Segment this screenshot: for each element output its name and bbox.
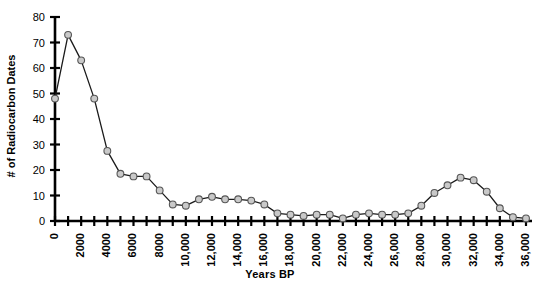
data-point-marker bbox=[405, 210, 412, 217]
x-axis-tick-label: 4000 bbox=[100, 233, 112, 257]
x-axis-tick-label-group: 20,000 bbox=[310, 233, 322, 267]
x-axis-tick-label-group: 22,000 bbox=[336, 233, 348, 267]
y-axis-tick-label: 60 bbox=[33, 62, 45, 74]
data-point-marker bbox=[457, 174, 464, 181]
y-axis-tick-label: 70 bbox=[33, 37, 45, 49]
data-point-marker bbox=[209, 193, 216, 200]
x-axis-tick-label: 10,000 bbox=[179, 233, 191, 267]
data-point-marker bbox=[222, 196, 229, 203]
x-axis-tick-label-group: 8000 bbox=[153, 233, 165, 257]
data-point-marker bbox=[353, 211, 360, 218]
x-axis-tick-label: 6000 bbox=[126, 233, 138, 257]
x-axis-tick-label: 0 bbox=[48, 233, 60, 239]
x-axis-tick-label-group: 12,000 bbox=[205, 233, 217, 267]
x-axis-tick-label: 8000 bbox=[153, 233, 165, 257]
x-axis-tick-label-group: 26,000 bbox=[388, 233, 400, 267]
x-axis-title: Years BP bbox=[0, 268, 540, 280]
x-axis-tick-label: 12,000 bbox=[205, 233, 217, 267]
x-axis-tick-label: 24,000 bbox=[362, 233, 374, 267]
x-axis-tick-label: 32,000 bbox=[467, 233, 479, 267]
data-point-marker bbox=[496, 205, 503, 212]
y-axis-tick-label: 10 bbox=[33, 190, 45, 202]
x-axis-tick-label: 36,000 bbox=[519, 233, 531, 267]
x-axis-tick-label: 14,000 bbox=[231, 233, 243, 267]
data-point-marker bbox=[510, 214, 517, 221]
data-point-marker bbox=[379, 211, 386, 218]
data-point-marker bbox=[143, 173, 150, 180]
x-axis-tick-label: 20,000 bbox=[310, 233, 322, 267]
data-point-marker bbox=[523, 215, 530, 222]
x-axis-tick-label-group: 18,000 bbox=[283, 233, 295, 267]
y-axis-tick-label: 0 bbox=[39, 215, 45, 227]
x-axis-tick-label: 34,000 bbox=[493, 233, 505, 267]
x-axis-tick-label: 22,000 bbox=[336, 233, 348, 267]
x-axis-tick-label: 26,000 bbox=[388, 233, 400, 267]
data-point-marker bbox=[444, 182, 451, 189]
x-axis-tick-label-group: 6000 bbox=[126, 233, 138, 257]
x-axis-tick-label: 16,000 bbox=[257, 233, 269, 267]
y-axis-tick-label: 30 bbox=[33, 139, 45, 151]
data-point-marker bbox=[52, 95, 59, 102]
radiocarbon-dates-chart: # of Radiocarbon Dates 01020304050607080… bbox=[0, 0, 540, 294]
x-axis-tick-label-group: 4000 bbox=[100, 233, 112, 257]
data-point-marker bbox=[431, 190, 438, 197]
y-axis-tick-label: 20 bbox=[33, 164, 45, 176]
data-point-marker bbox=[117, 170, 124, 177]
x-axis-tick-label-group: 30,000 bbox=[440, 233, 452, 267]
data-series-line bbox=[55, 35, 526, 219]
x-axis-tick-label-group: 2000 bbox=[74, 233, 86, 257]
data-point-marker bbox=[91, 95, 98, 102]
x-axis-tick-label: 2000 bbox=[74, 233, 86, 257]
data-point-marker bbox=[366, 210, 373, 217]
data-point-marker bbox=[248, 197, 255, 204]
plot-area: 010203040506070800200040006000800010,000… bbox=[0, 0, 540, 294]
data-point-marker bbox=[392, 211, 399, 218]
data-point-marker bbox=[418, 202, 425, 209]
y-axis-tick-label: 50 bbox=[33, 88, 45, 100]
data-point-marker bbox=[130, 173, 137, 180]
data-point-marker bbox=[182, 202, 189, 209]
data-point-marker bbox=[313, 211, 320, 218]
x-axis-tick-label-group: 0 bbox=[48, 233, 60, 239]
x-axis-tick-label-group: 14,000 bbox=[231, 233, 243, 267]
x-axis-tick-label: 18,000 bbox=[283, 233, 295, 267]
data-point-marker bbox=[287, 211, 294, 218]
x-axis-tick-label-group: 32,000 bbox=[467, 233, 479, 267]
data-point-marker bbox=[300, 213, 307, 220]
data-point-marker bbox=[339, 215, 346, 222]
data-point-marker bbox=[470, 177, 477, 184]
data-point-marker bbox=[483, 188, 490, 195]
data-point-marker bbox=[104, 147, 111, 154]
x-axis-tick-label-group: 10,000 bbox=[179, 233, 191, 267]
x-axis-tick-label-group: 36,000 bbox=[519, 233, 531, 267]
data-point-marker bbox=[261, 201, 268, 208]
data-point-marker bbox=[65, 31, 72, 38]
x-axis-tick-label-group: 16,000 bbox=[257, 233, 269, 267]
data-point-marker bbox=[78, 57, 85, 64]
data-point-marker bbox=[326, 211, 333, 218]
data-point-marker bbox=[156, 187, 163, 194]
x-axis-tick-label: 28,000 bbox=[414, 233, 426, 267]
x-axis-tick-label-group: 28,000 bbox=[414, 233, 426, 267]
x-axis-tick-label-group: 34,000 bbox=[493, 233, 505, 267]
data-point-marker bbox=[196, 196, 203, 203]
x-axis-tick-label: 30,000 bbox=[440, 233, 452, 267]
x-axis-tick-label-group: 24,000 bbox=[362, 233, 374, 267]
y-axis-tick-label: 80 bbox=[33, 11, 45, 23]
data-point-marker bbox=[274, 210, 281, 217]
y-axis-tick-label: 40 bbox=[33, 113, 45, 125]
data-point-marker bbox=[169, 201, 176, 208]
data-point-marker bbox=[235, 196, 242, 203]
